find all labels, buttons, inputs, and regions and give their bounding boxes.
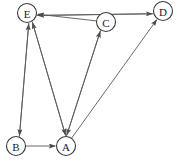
edge-d-to-e — [38, 14, 154, 16]
node-b[interactable]: B — [7, 137, 26, 156]
nodes-layer: ABCDE — [7, 2, 173, 156]
node-c[interactable]: C — [97, 13, 116, 32]
node-d-circle[interactable] — [154, 2, 173, 21]
node-c-circle[interactable] — [97, 13, 116, 32]
edge-e-to-b — [19, 23, 28, 136]
directed-graph-figure: ABCDE — [0, 0, 177, 161]
node-e[interactable]: E — [18, 4, 37, 23]
edge-a-to-d — [72, 20, 157, 139]
edges-layer — [19, 14, 156, 146]
node-d[interactable]: D — [154, 2, 173, 21]
graph-canvas: ABCDE — [0, 0, 177, 161]
node-b-circle[interactable] — [7, 137, 26, 156]
node-a-circle[interactable] — [57, 137, 76, 156]
edge-e-to-a — [32, 21, 65, 135]
edge-a-to-c — [66, 31, 100, 136]
node-a[interactable]: A — [57, 137, 76, 156]
node-e-circle[interactable] — [18, 4, 37, 23]
